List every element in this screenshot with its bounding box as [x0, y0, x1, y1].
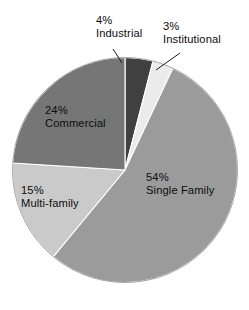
- slice-percent-multi-family: 15%: [21, 184, 79, 197]
- slice-label-single-family: 54% Single Family: [146, 171, 214, 197]
- pie-slices: [12, 58, 237, 283]
- pie-chart: 54% Single Family 24% Commercial 15% Mul…: [0, 0, 249, 310]
- slice-label-industrial: 4% Industrial: [96, 14, 142, 40]
- slice-percent-institutional: 3%: [163, 20, 221, 33]
- slice-name-multi-family: Multi-family: [21, 197, 79, 210]
- slice-name-institutional: Institutional: [163, 33, 221, 46]
- slice-label-institutional: 3% Institutional: [163, 20, 221, 46]
- slice-percent-single-family: 54%: [146, 171, 214, 184]
- slice-percent-industrial: 4%: [96, 14, 142, 27]
- slice-name-single-family: Single Family: [146, 184, 214, 197]
- slice-label-commercial: 24% Commercial: [45, 104, 106, 130]
- slice-label-multi-family: 15% Multi-family: [21, 184, 79, 210]
- slice-name-industrial: Industrial: [96, 27, 142, 40]
- pie-chart-svg: [0, 0, 249, 310]
- slice-name-commercial: Commercial: [45, 117, 106, 130]
- slice-percent-commercial: 24%: [45, 104, 106, 117]
